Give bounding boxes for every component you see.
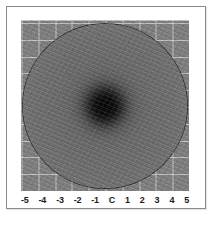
x-tick-minus2: -2 (74, 196, 82, 205)
plot-area (21, 20, 189, 191)
plot-frame: -5 -4 -3 -2 -1 C 1 2 3 4 5 (6, 6, 206, 209)
x-tick-plus1: 1 (125, 196, 130, 205)
x-tick-plus5: 5 (184, 196, 189, 205)
x-tick-plus3: 3 (155, 196, 160, 205)
beam-spot-disc (23, 24, 187, 188)
x-axis-tick-labels: -5 -4 -3 -2 -1 C 1 2 3 4 5 (21, 192, 189, 208)
x-tick-center: C (109, 196, 115, 205)
x-tick-minus3: -3 (56, 196, 64, 205)
x-tick-plus4: 4 (169, 196, 174, 205)
x-tick-minus5: -5 (21, 196, 29, 205)
x-tick-minus1: -1 (91, 196, 99, 205)
x-tick-minus4: -4 (39, 196, 47, 205)
x-tick-plus2: 2 (140, 196, 145, 205)
